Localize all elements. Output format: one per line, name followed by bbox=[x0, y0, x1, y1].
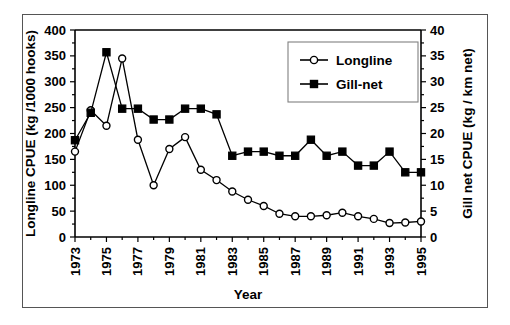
data-point-square bbox=[229, 152, 236, 159]
data-point-circle bbox=[197, 166, 204, 173]
data-point-square bbox=[103, 49, 110, 56]
data-point-square bbox=[292, 152, 299, 159]
data-point-circle bbox=[103, 122, 110, 129]
data-point-square bbox=[181, 105, 188, 112]
data-point-square bbox=[276, 152, 283, 159]
x-ticklabel: 1993 bbox=[382, 247, 397, 276]
data-point-circle bbox=[386, 220, 393, 227]
y-left-ticklabel: 150 bbox=[44, 152, 66, 167]
data-point-circle bbox=[355, 213, 362, 220]
y-right-ticklabel: 35 bbox=[430, 48, 444, 63]
data-point-square bbox=[71, 137, 78, 144]
data-point-square bbox=[260, 148, 267, 155]
data-point-circle bbox=[213, 177, 220, 184]
y-left-ticklabel: 400 bbox=[44, 23, 66, 38]
data-point-circle bbox=[150, 182, 157, 189]
data-point-square bbox=[87, 109, 94, 116]
data-point-circle bbox=[276, 210, 283, 217]
data-point-circle bbox=[418, 218, 425, 225]
y-right-ticklabel: 10 bbox=[430, 178, 444, 193]
data-point-square bbox=[370, 162, 377, 169]
x-ticklabel: 1977 bbox=[130, 247, 145, 276]
data-point-square bbox=[119, 105, 126, 112]
data-point-circle bbox=[119, 55, 126, 62]
x-ticklabel: 1975 bbox=[99, 247, 114, 276]
data-point-circle bbox=[72, 148, 79, 155]
y-left-axis-title: Longline CPUE (kg /1000 hooks) bbox=[23, 30, 38, 237]
y-right-ticklabel: 20 bbox=[430, 126, 444, 141]
data-point-circle bbox=[229, 188, 236, 195]
data-point-circle bbox=[402, 219, 409, 226]
data-point-square bbox=[386, 148, 393, 155]
y-right-ticklabel: 30 bbox=[430, 74, 444, 89]
data-point-square bbox=[402, 169, 409, 176]
data-point-circle bbox=[134, 136, 141, 143]
y-left-ticklabel: 350 bbox=[44, 48, 66, 63]
legend-marker-square bbox=[310, 80, 317, 87]
data-point-square bbox=[354, 162, 361, 169]
y-left-ticklabel: 100 bbox=[44, 178, 66, 193]
x-ticklabel: 1987 bbox=[288, 247, 303, 276]
cpue-chart: 0501001502002503003504000510152025303540… bbox=[0, 0, 510, 325]
data-point-circle bbox=[292, 213, 299, 220]
y-left-ticklabel: 50 bbox=[52, 204, 66, 219]
y-right-ticklabel: 0 bbox=[430, 230, 437, 245]
y-left-ticklabel: 0 bbox=[59, 230, 66, 245]
data-point-square bbox=[213, 111, 220, 118]
x-ticklabel: 1979 bbox=[162, 247, 177, 276]
y-right-ticklabel: 5 bbox=[430, 204, 437, 219]
y-left-ticklabel: 200 bbox=[44, 126, 66, 141]
legend-label-1: Gill-net bbox=[336, 77, 383, 92]
y-right-ticklabel: 25 bbox=[430, 100, 444, 115]
data-point-circle bbox=[370, 215, 377, 222]
data-point-square bbox=[339, 148, 346, 155]
data-point-circle bbox=[166, 146, 173, 153]
x-ticklabel: 1995 bbox=[414, 247, 429, 276]
data-point-circle bbox=[323, 212, 330, 219]
data-point-square bbox=[244, 148, 251, 155]
data-point-square bbox=[150, 116, 157, 123]
data-point-square bbox=[134, 105, 141, 112]
data-point-square bbox=[166, 116, 173, 123]
data-point-circle bbox=[339, 209, 346, 216]
data-point-square bbox=[417, 169, 424, 176]
data-point-circle bbox=[307, 213, 314, 220]
data-point-circle bbox=[245, 196, 252, 203]
x-ticklabel: 1973 bbox=[68, 247, 83, 276]
y-right-ticklabel: 15 bbox=[430, 152, 444, 167]
data-point-square bbox=[197, 105, 204, 112]
legend-label-0: Longline bbox=[336, 53, 393, 68]
x-ticklabel: 1983 bbox=[225, 247, 240, 276]
data-point-circle bbox=[182, 134, 189, 141]
legend-box bbox=[288, 42, 418, 102]
x-axis-title: Year bbox=[234, 287, 263, 302]
x-ticklabel: 1981 bbox=[193, 247, 208, 276]
y-left-ticklabel: 250 bbox=[44, 100, 66, 115]
x-ticklabel: 1985 bbox=[256, 247, 271, 276]
data-point-square bbox=[307, 136, 314, 143]
data-point-circle bbox=[260, 202, 267, 209]
x-ticklabel: 1991 bbox=[351, 247, 366, 276]
y-left-ticklabel: 300 bbox=[44, 74, 66, 89]
y-right-axis-title: Gill net CPUE (kg / km net) bbox=[460, 48, 475, 218]
chart-canvas: 0501001502002503003504000510152025303540… bbox=[0, 0, 510, 325]
x-ticklabel: 1989 bbox=[319, 247, 334, 276]
legend-marker-circle bbox=[310, 56, 317, 63]
y-right-ticklabel: 40 bbox=[430, 23, 444, 38]
data-point-square bbox=[323, 152, 330, 159]
